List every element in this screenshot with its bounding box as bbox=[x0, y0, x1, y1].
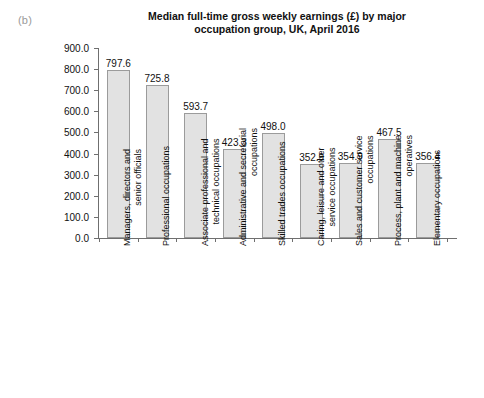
y-axis-tick bbox=[94, 217, 98, 218]
x-axis-category-label: Caring, leisure and otherservice occupat… bbox=[316, 147, 337, 246]
category-label-line: Managers, directors and bbox=[122, 149, 133, 246]
category-label-line: occupations bbox=[365, 135, 376, 246]
y-axis-tick-label: 200.0 bbox=[64, 190, 89, 201]
category-label-line: Elementary occupations bbox=[432, 150, 443, 246]
x-axis-category-label: Sales and customer serviceoccupations bbox=[354, 135, 375, 246]
chart-title-line-1: Median full-time gross weekly earnings (… bbox=[92, 10, 462, 23]
category-label-line: occupations bbox=[249, 128, 260, 246]
bar-value-label: 593.7 bbox=[183, 101, 208, 112]
x-axis-tick bbox=[99, 238, 100, 242]
y-axis-tick-label: 800.0 bbox=[64, 64, 89, 75]
category-label-line: Professional occupations bbox=[161, 146, 172, 246]
category-label-line: Sales and customer service bbox=[354, 135, 365, 246]
y-axis-tick bbox=[94, 196, 98, 197]
panel-label: (b) bbox=[18, 14, 32, 26]
y-axis-tick-label: 0.0 bbox=[75, 233, 89, 244]
y-axis-line bbox=[98, 48, 99, 238]
category-label-line: service occupations bbox=[326, 147, 337, 246]
chart-title: Median full-time gross weekly earnings (… bbox=[92, 10, 462, 36]
y-axis-tick bbox=[94, 132, 98, 133]
y-axis-tick bbox=[94, 90, 98, 91]
category-label-line: Caring, leisure and other bbox=[316, 147, 327, 246]
y-axis-tick-label: 100.0 bbox=[64, 211, 89, 222]
x-axis-category-label: Process, plant and machineoperatives bbox=[393, 135, 414, 246]
y-axis-tick-label: 500.0 bbox=[64, 127, 89, 138]
y-axis-tick-label: 600.0 bbox=[64, 106, 89, 117]
category-label-line: Associate professional and bbox=[200, 138, 211, 246]
category-label-line: Administrative and secretarial bbox=[238, 128, 249, 246]
y-axis-tick-label: 300.0 bbox=[64, 169, 89, 180]
x-axis-category-label: Professional occupations bbox=[161, 146, 172, 246]
category-label-line: Skilled trades occupations bbox=[277, 141, 288, 246]
y-axis-tick bbox=[94, 154, 98, 155]
category-label-line: operatives bbox=[404, 135, 415, 246]
category-label-line: senior officials bbox=[133, 149, 144, 246]
y-axis-tick-label: 700.0 bbox=[64, 85, 89, 96]
y-axis-tick-label: 400.0 bbox=[64, 148, 89, 159]
x-axis-tick bbox=[292, 238, 293, 242]
y-axis-tick bbox=[94, 48, 98, 49]
y-axis-tick bbox=[94, 111, 98, 112]
x-axis-tick bbox=[176, 238, 177, 242]
y-axis-tick bbox=[94, 175, 98, 176]
x-axis-tick bbox=[447, 238, 448, 242]
y-axis-tick bbox=[94, 69, 98, 70]
figure-panel: (b) Median full-time gross weekly earnin… bbox=[0, 0, 484, 398]
y-axis-tick bbox=[94, 238, 98, 239]
x-axis-category-label: Skilled trades occupations bbox=[277, 141, 288, 246]
x-axis-category-label: Managers, directors andsenior officials bbox=[122, 149, 143, 246]
category-label-line: Process, plant and machine bbox=[393, 135, 404, 246]
chart-title-line-2: occupation group, UK, April 2016 bbox=[92, 23, 462, 36]
bar-value-label: 498.0 bbox=[260, 121, 285, 132]
x-axis-category-label: Administrative and secretarialoccupation… bbox=[238, 128, 259, 246]
y-axis-tick-label: 900.0 bbox=[64, 43, 89, 54]
category-label-line: technical occupations bbox=[210, 138, 221, 246]
bar-value-label: 797.6 bbox=[106, 58, 131, 69]
x-axis-category-label: Elementary occupations bbox=[432, 150, 443, 246]
x-axis-category-label: Associate professional andtechnical occu… bbox=[200, 138, 221, 246]
bar-value-label: 725.8 bbox=[144, 73, 169, 84]
